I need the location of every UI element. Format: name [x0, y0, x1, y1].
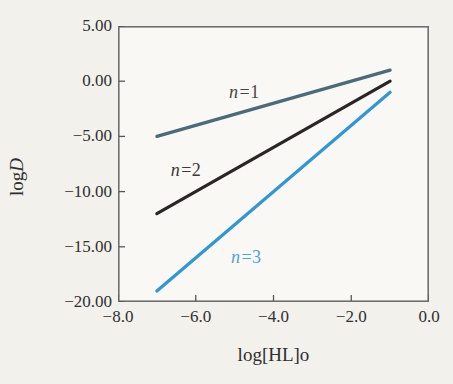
plot-canvas: [118, 26, 429, 302]
series-label-n2: n=2: [171, 159, 202, 180]
y-tick-label: −15.00: [0, 237, 112, 257]
x-tick-label: −2.0: [336, 307, 367, 327]
y-tick-label: 5.00: [0, 16, 112, 36]
x-tick-label: −8.0: [103, 307, 134, 327]
x-tick-label: 0.0: [418, 307, 439, 327]
series-label-variable: n: [171, 159, 181, 179]
x-axis-title: log[HL]o: [118, 344, 429, 366]
series-label-n1: n=1: [229, 81, 260, 102]
y-tick-label: 0.00: [0, 71, 112, 91]
y-tick-label: −10.00: [0, 182, 112, 202]
series-label-value: =1: [240, 81, 260, 101]
series-label-n3: n=3: [231, 246, 262, 267]
y-tick-label: −20.00: [0, 292, 112, 312]
plot-frame: [119, 27, 428, 301]
series-label-value: =3: [241, 246, 261, 266]
chart-figure: logD n=1n=2n=3 log[HL]o 5.000.00−5.00−10…: [0, 0, 453, 384]
plot-area: n=1n=2n=3: [118, 26, 429, 302]
series-label-variable: n: [229, 81, 239, 101]
x-tick-label: −4.0: [258, 307, 289, 327]
y-axis-title-variable: D: [6, 158, 27, 172]
series-label-variable: n: [231, 246, 241, 266]
y-tick-label: −5.00: [0, 126, 112, 146]
x-tick-label: −6.0: [180, 307, 211, 327]
series-label-value: =2: [181, 159, 201, 179]
